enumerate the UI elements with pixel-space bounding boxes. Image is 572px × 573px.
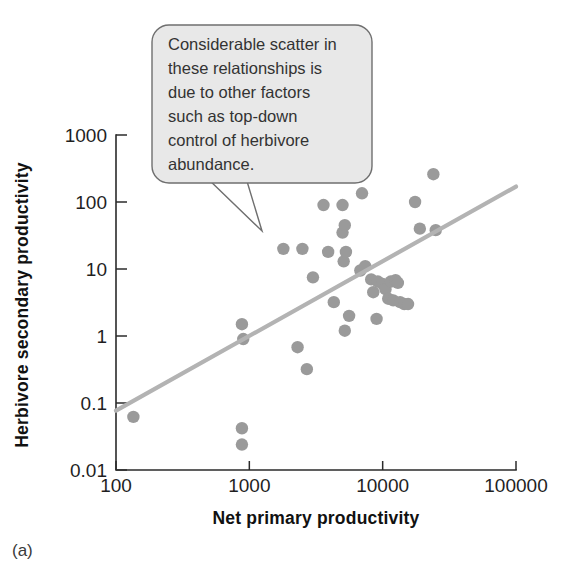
data-point (340, 246, 352, 258)
data-point (356, 187, 368, 199)
callout-line: Considerable scatter in (168, 35, 337, 53)
x-tick-label: 100000 (484, 475, 547, 496)
scatter-plot: 100100010000100000 0.010.11101001000 Con… (0, 0, 572, 573)
data-point (367, 286, 379, 298)
y-tick-label: 1 (96, 326, 107, 347)
callout-line: these relationships is (168, 59, 322, 77)
data-point (127, 411, 139, 423)
x-tick-label: 10000 (356, 475, 409, 496)
callout-line: such as top-down (168, 107, 297, 125)
y-axis-title: Herbivore secondary productivity (12, 162, 32, 448)
data-point (236, 422, 248, 434)
y-tick-label: 0.1 (81, 393, 107, 414)
y-tick-label: 100 (75, 192, 107, 213)
callout-line: control of herbivore (168, 131, 309, 149)
trend-line (116, 187, 516, 411)
data-point (328, 296, 340, 308)
data-point (402, 298, 414, 310)
data-point (370, 313, 382, 325)
figure-panel: 100100010000100000 0.010.11101001000 Con… (0, 0, 572, 573)
callout-line: due to other factors (168, 83, 310, 101)
data-point (277, 243, 289, 255)
data-point (307, 271, 319, 283)
data-points (127, 168, 442, 451)
y-axis-tick-labels: 0.010.11101001000 (65, 125, 107, 481)
y-tick-label: 10 (86, 259, 107, 280)
data-point (392, 277, 404, 289)
data-point (236, 318, 248, 330)
data-point (339, 324, 351, 336)
x-axis-title: Net primary productivity (212, 508, 419, 528)
x-axis-ticks (116, 461, 516, 470)
y-tick-label: 1000 (65, 125, 107, 146)
x-axis-tick-labels: 100100010000100000 (100, 475, 548, 496)
data-point (301, 363, 313, 375)
data-point (317, 199, 329, 211)
callout-line: abundance. (168, 155, 254, 173)
data-point (322, 246, 334, 258)
data-point (343, 310, 355, 322)
data-point (427, 168, 439, 180)
x-tick-label: 1000 (228, 475, 270, 496)
data-point (414, 222, 426, 234)
y-tick-label: 0.01 (70, 460, 107, 481)
data-point (336, 199, 348, 211)
data-point (409, 196, 421, 208)
data-point (296, 243, 308, 255)
data-point (339, 219, 351, 231)
callout-tail-icon (205, 176, 262, 231)
data-point (236, 438, 248, 450)
y-axis-ticks (116, 135, 127, 470)
panel-label: (a) (12, 541, 33, 560)
axis-lines (116, 135, 516, 470)
data-point (291, 341, 303, 353)
